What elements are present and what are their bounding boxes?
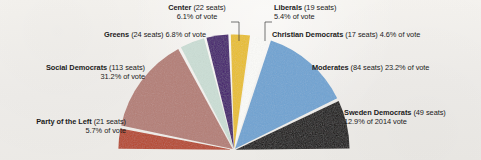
slice-label-liberals: Liberals (19 seats) 5.4% of vote [274, 3, 394, 22]
slice-label-social-democrats-party: Social Democrats [46, 63, 107, 72]
slice-label-moderates: Moderates (84 seats) 23.2% of vote [312, 63, 478, 72]
slice-label-center-line2: 6.1% of vote [133, 12, 261, 21]
slice-label-christian-democrats: Christian Democrats (17 seats) 4.6% of v… [272, 30, 477, 39]
leader-line-liberals [265, 22, 272, 41]
slice-label-moderates-party: Moderates [312, 63, 349, 72]
slice-label-greens: Greens (24 seats) 6.8% of vote [28, 30, 206, 39]
slice-label-sweden-democrats: Sweden Democrats (49 seats) 12.9% of 201… [344, 108, 480, 127]
slice-label-christian-democrats-detail: (17 seats) 4.6% of vote [343, 30, 420, 39]
half-pie-chart: Center (22 seats) 6.1% of vote Liberals … [0, 0, 481, 160]
slice-label-liberals-detail: (19 seats) [302, 3, 336, 12]
slice-label-party-of-the-left-party: Party of the Left [36, 117, 91, 126]
slice-label-center-detail: (22 seats) [191, 3, 225, 12]
slice-label-center: Center (22 seats) 6.1% of vote [133, 3, 261, 22]
slice-label-social-democrats-line2: 31.2% of vote [5, 72, 145, 81]
slice-label-christian-democrats-party: Christian Democrats [272, 30, 343, 39]
slice-label-sweden-democrats-party: Sweden Democrats [344, 108, 411, 117]
slice-label-liberals-party: Liberals [274, 3, 302, 12]
slice-label-liberals-line2: 5.4% of vote [274, 12, 394, 21]
slice-label-social-democrats-detail: (113 seats) [107, 63, 145, 72]
slice-label-center-party: Center [168, 3, 191, 12]
slice-label-sweden-democrats-line2: 12.9% of 2014 vote [344, 117, 480, 126]
slice-label-sweden-democrats-detail: (49 seats) [411, 108, 445, 117]
slice-label-greens-party: Greens [104, 30, 129, 39]
slice-label-party-of-the-left: Party of the Left (21 seats) 5.7% of vot… [2, 117, 126, 136]
slice-label-party-of-the-left-detail: (21 seats) [92, 117, 126, 126]
pie-slices-group [118, 34, 349, 149]
slice-label-moderates-detail: (84 seats) 23.2% of vote [349, 63, 430, 72]
slice-label-party-of-the-left-line2: 5.7% of vote [2, 126, 126, 135]
slice-label-greens-detail: (24 seats) 6.8% of vote [129, 30, 206, 39]
slice-label-social-democrats: Social Democrats (113 seats) 31.2% of vo… [5, 63, 145, 82]
